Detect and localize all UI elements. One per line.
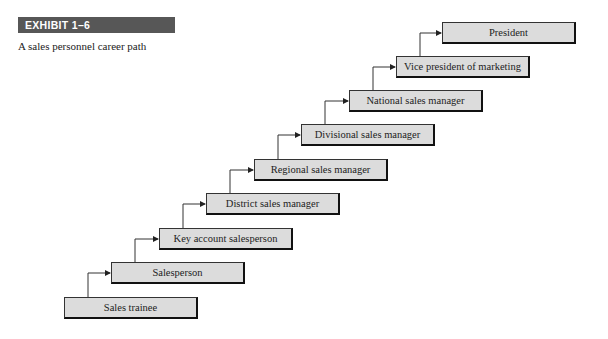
step-label: Key account salesperson: [174, 233, 278, 244]
step-label: Sales trainee: [104, 302, 157, 313]
step-label: District sales manager: [226, 198, 319, 209]
step-district-sales-manager: District sales manager: [206, 193, 340, 215]
step-label: Salesperson: [152, 267, 202, 278]
step-label: Divisional sales manager: [315, 129, 421, 140]
step-divisional-sales-manager: Divisional sales manager: [301, 124, 435, 146]
step-president: President: [442, 22, 576, 44]
step-label: Vice president of marketing: [404, 61, 521, 72]
step-regional-sales-manager: Regional sales manager: [254, 159, 388, 181]
step-national-sales-manager: National sales manager: [349, 90, 483, 112]
step-label: Regional sales manager: [271, 164, 371, 175]
step-label: National sales manager: [367, 95, 465, 106]
step-vice-president-marketing: Vice president of marketing: [396, 56, 530, 78]
step-sales-trainee: Sales trainee: [64, 297, 198, 319]
step-key-account-salesperson: Key account salesperson: [159, 228, 293, 250]
step-salesperson: Salesperson: [111, 262, 245, 284]
step-label: President: [489, 27, 528, 38]
